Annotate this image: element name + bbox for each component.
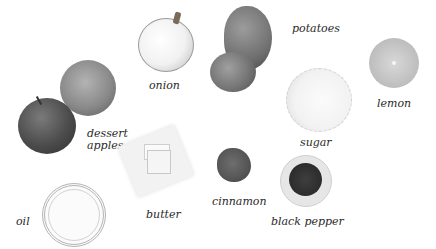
cinnamon-image xyxy=(217,148,255,184)
cinnamon-label: cinnamon xyxy=(212,195,267,208)
black-pepper-label: black pepper xyxy=(271,215,344,228)
sugar-image xyxy=(286,68,352,132)
lemon-image xyxy=(369,38,421,90)
onion-image xyxy=(136,12,196,72)
butter-image xyxy=(120,128,196,198)
dessert-apples-label-line2: apples xyxy=(87,139,123,152)
sugar-label: sugar xyxy=(300,136,332,149)
potatoes-label: potatoes xyxy=(292,22,340,35)
black-pepper-image xyxy=(280,155,332,207)
lemon-label: lemon xyxy=(377,97,411,110)
butter-label: butter xyxy=(146,208,181,221)
potatoes-image xyxy=(208,4,283,94)
oil-image xyxy=(40,183,110,249)
oil-label: oil xyxy=(16,215,30,228)
onion-label: onion xyxy=(149,79,180,92)
